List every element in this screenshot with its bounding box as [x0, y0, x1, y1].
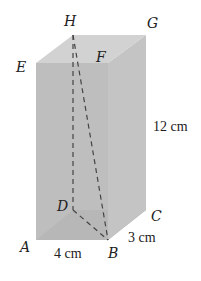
label-c: C — [151, 208, 162, 224]
label-b: B — [107, 245, 118, 261]
front-face — [36, 63, 108, 240]
label-d: D — [56, 198, 68, 214]
label-f: F — [95, 49, 107, 65]
right-face — [108, 35, 146, 240]
label-h: H — [63, 13, 77, 29]
label-e: E — [15, 59, 26, 75]
label-g: G — [147, 15, 158, 31]
prism-diagram: H G E F D C A B 12 cm 3 cm 4 cm — [0, 0, 201, 281]
label-a: A — [18, 239, 30, 255]
height-label: 12 cm — [153, 119, 188, 134]
width-label: 3 cm — [128, 230, 156, 245]
length-label: 4 cm — [54, 246, 82, 261]
